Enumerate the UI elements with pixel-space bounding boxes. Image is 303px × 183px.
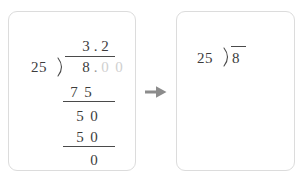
solved-division-card: 0 3 . 2 25 0 8 . 0 0 7 bbox=[8, 11, 136, 171]
step3-digit-2: 0 bbox=[87, 130, 101, 145]
step-bring-down: 5 0 bbox=[73, 108, 101, 125]
quotient-whole-digit: 3 bbox=[79, 39, 93, 54]
quotient-row: 0 3 . 2 bbox=[65, 38, 112, 55]
dividend-whole-digit: 8 bbox=[79, 60, 93, 75]
quotient-spacer: 0 bbox=[65, 39, 79, 54]
long-division-work: 0 3 . 2 25 0 8 . 0 0 7 bbox=[9, 12, 135, 170]
dividend-spacer: 0 bbox=[65, 60, 79, 75]
worksheet-stage: 0 3 . 2 25 0 8 . 0 0 7 bbox=[0, 0, 303, 183]
subtraction-rule-first bbox=[63, 101, 115, 102]
remainder-row: 0 bbox=[87, 152, 101, 169]
division-expression: 25 8 bbox=[197, 50, 213, 67]
step-subtract-first: 7 5 bbox=[67, 84, 95, 101]
arrow-right-icon bbox=[144, 84, 168, 100]
problem-divisor-value: 25 bbox=[197, 50, 213, 66]
dividend-faded-digit-1: 0 bbox=[98, 60, 112, 75]
division-vinculum bbox=[65, 56, 115, 57]
step-subtract-second: 5 0 bbox=[73, 129, 101, 146]
step1-digit-1: 7 bbox=[67, 85, 81, 100]
division-expression-wrap: 25 8 bbox=[197, 50, 213, 67]
dividend-row: 0 8 . 0 0 bbox=[65, 59, 126, 76]
step3-digit-1: 5 bbox=[73, 130, 87, 145]
subtraction-rule-second bbox=[63, 146, 115, 147]
problem-vinculum bbox=[231, 46, 246, 47]
dividend-faded-digit-2: 0 bbox=[112, 60, 126, 75]
problem-division-card: 25 8 bbox=[176, 11, 295, 171]
problem-dividend-value: 8 bbox=[232, 50, 240, 67]
quotient-tenths-digit: 2 bbox=[98, 39, 112, 54]
step2-digit-2: 0 bbox=[87, 109, 101, 124]
step2-digit-1: 5 bbox=[73, 109, 87, 124]
divisor-value: 25 bbox=[31, 60, 47, 75]
step1-digit-2: 5 bbox=[81, 85, 95, 100]
remainder-digit: 0 bbox=[87, 153, 101, 168]
